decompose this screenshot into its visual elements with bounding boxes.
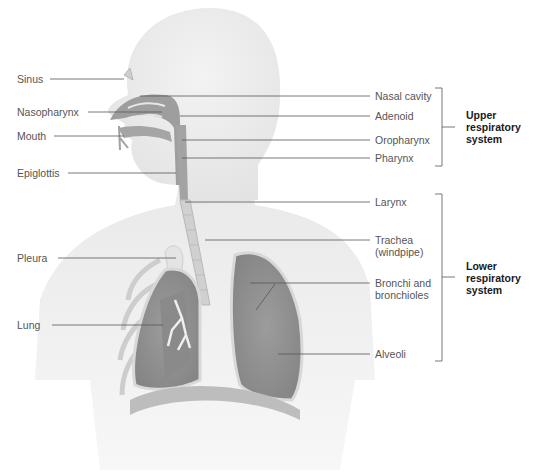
label-nasopharynx: Nasopharynx — [17, 106, 79, 118]
label-mouth: Mouth — [17, 130, 46, 142]
label-trachea: Trachea (windpipe) — [375, 234, 423, 258]
label-nasal-cavity: Nasal cavity — [375, 90, 432, 102]
label-sinus: Sinus — [17, 73, 43, 85]
label-pleura: Pleura — [17, 252, 47, 264]
respiratory-system-diagram: Sinus Nasopharynx Mouth Epiglottis Pleur… — [0, 0, 544, 476]
label-lung: Lung — [17, 319, 40, 331]
group-upper-respiratory: Upper respiratory system — [466, 109, 521, 145]
group-lower-line2: respiratory — [466, 272, 521, 284]
group-lower-line1: Lower — [466, 260, 521, 272]
group-upper-line1: Upper — [466, 109, 521, 121]
label-larynx: Larynx — [375, 196, 407, 208]
group-upper-line2: respiratory — [466, 121, 521, 133]
label-trachea-line2: (windpipe) — [375, 246, 423, 258]
group-upper-line3: system — [466, 133, 521, 145]
label-oropharynx: Oropharynx — [375, 134, 430, 146]
group-lower-respiratory: Lower respiratory system — [466, 260, 521, 296]
group-lower-line3: system — [466, 284, 521, 296]
label-pharynx: Pharynx — [375, 152, 414, 164]
leader-lines — [0, 0, 544, 476]
label-bronchi-line1: Bronchi and — [375, 277, 431, 289]
label-bronchi-line2: bronchioles — [375, 289, 431, 301]
label-alveoli: Alveoli — [375, 348, 406, 360]
label-trachea-line1: Trachea — [375, 234, 423, 246]
label-epiglottis: Epiglottis — [17, 167, 60, 179]
label-adenoid: Adenoid — [375, 110, 414, 122]
label-bronchi: Bronchi and bronchioles — [375, 277, 431, 301]
